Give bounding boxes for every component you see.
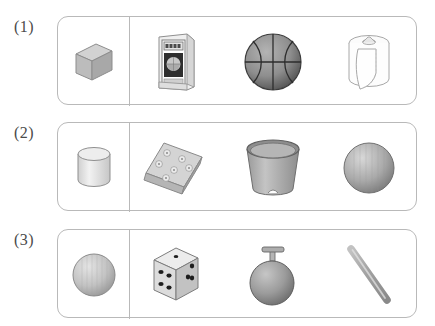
- worksheet-row-2: (2): [0, 122, 435, 222]
- row-label-1: (1): [14, 18, 34, 36]
- sphere-icon: [341, 140, 397, 196]
- object-cell-3-3[interactable]: [321, 230, 416, 319]
- object-cell-3-1[interactable]: [129, 230, 225, 319]
- object-cell-1-3[interactable]: [321, 17, 416, 106]
- object-cell-2-3[interactable]: [321, 123, 416, 212]
- balloon-icon: [244, 242, 302, 308]
- row-panel-2: [57, 122, 417, 211]
- basketball-icon: [242, 31, 304, 93]
- paper-roll-icon: [341, 29, 397, 95]
- worksheet-row-1: (1): [0, 16, 435, 116]
- worksheet: (1): [0, 0, 435, 326]
- cube-icon: [70, 38, 118, 86]
- row-label-3: (3): [14, 231, 34, 249]
- soap-bar-icon: [142, 137, 212, 199]
- book-icon: [154, 31, 200, 93]
- cylinder-icon: [72, 142, 116, 194]
- object-cell-1-1[interactable]: [129, 17, 225, 106]
- reference-shape-cell-2[interactable]: [58, 123, 129, 212]
- row-label-2: (2): [14, 124, 34, 142]
- reference-shape-cell-3[interactable]: [58, 230, 129, 319]
- row-panel-3: [57, 229, 417, 318]
- bucket-icon: [242, 137, 304, 199]
- object-cell-1-2[interactable]: [225, 17, 321, 106]
- sphere-icon: [70, 251, 118, 299]
- object-cell-3-2[interactable]: [225, 230, 321, 319]
- reference-shape-cell-1[interactable]: [58, 17, 129, 106]
- rod-icon: [338, 242, 400, 308]
- dice-icon: [148, 244, 206, 306]
- row-panel-1: [57, 16, 417, 105]
- object-cell-2-1[interactable]: [129, 123, 225, 212]
- worksheet-row-3: (3): [0, 229, 435, 326]
- object-cell-2-2[interactable]: [225, 123, 321, 212]
